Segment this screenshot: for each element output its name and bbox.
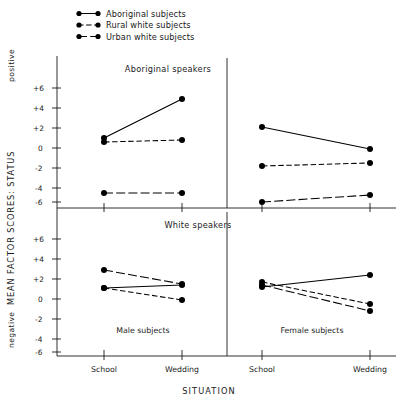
data-point [367, 308, 373, 314]
legend: Aboriginal subjects Rural white subjects… [76, 9, 194, 42]
x-label-female-wedding: Wedding [353, 365, 387, 374]
data-point [101, 285, 107, 291]
series-line [104, 285, 182, 288]
chart-svg: Aboriginal subjects Rural white subjects… [0, 0, 403, 406]
x-axis-title: SITUATION [182, 386, 235, 396]
polarity-label-negative: negative [7, 312, 16, 348]
data-point [367, 192, 373, 198]
series-urban-top-left [101, 190, 185, 196]
figure-container: Aboriginal subjects Rural white subjects… [0, 0, 403, 406]
data-point [179, 137, 185, 143]
y-tick-label-bottom-m6: -6 [35, 348, 43, 357]
top-row-title: Aboriginal speakers [125, 64, 211, 74]
data-point [367, 301, 373, 307]
series-line [104, 140, 182, 142]
legend-entry-aboriginal: Aboriginal subjects [76, 9, 185, 19]
legend-swatch-rural-marker-right [95, 22, 100, 27]
data-point [179, 282, 185, 288]
data-point [367, 146, 373, 152]
series-aboriginal-bottom-right [259, 272, 373, 290]
y-tick-label-top-m6: -6 [35, 198, 43, 207]
y-tick-label-top-0: 0 [38, 144, 43, 153]
y-tick-label-bottom-0: 0 [38, 295, 43, 304]
data-point [259, 163, 265, 169]
legend-swatch-aboriginal-marker-left [76, 11, 81, 16]
legend-swatch-urban-marker-right [95, 34, 100, 39]
legend-label-aboriginal: Aboriginal subjects [106, 9, 186, 19]
data-point [101, 139, 107, 145]
legend-entry-rural: Rural white subjects [76, 20, 190, 30]
panel-bottom-right [259, 272, 373, 314]
y-tick-label-bottom-m4: -4 [35, 335, 43, 344]
axis-frame [57, 56, 396, 356]
series-line [104, 288, 182, 300]
y-axis-title: MEAN FACTOR SCORES: STATUS [6, 151, 16, 305]
series-urban-bottom-left [101, 267, 185, 287]
polarity-label-positive: positive [7, 49, 16, 82]
legend-label-rural: Rural white subjects [106, 20, 191, 30]
series-rural-top-left [101, 137, 185, 145]
legend-swatch-aboriginal-marker-right [95, 11, 100, 16]
series-line [262, 195, 370, 202]
panel-top-right [259, 124, 373, 205]
y-tick-label-bottom-m2: -2 [35, 315, 42, 324]
x-label-male-school: School [91, 365, 117, 374]
legend-label-urban: Urban white subjects [106, 32, 194, 42]
legend-swatch-urban-marker-left [76, 34, 81, 39]
series-line [104, 99, 182, 138]
series-urban-top-right [259, 192, 373, 205]
x-ticks-mid [104, 203, 370, 212]
data-point [179, 96, 185, 102]
data-point [367, 160, 373, 166]
series-rural-top-right [259, 160, 373, 169]
y-tick-label-top-p2: +2 [33, 124, 44, 133]
series-line [262, 163, 370, 166]
legend-entry-urban: Urban white subjects [76, 32, 194, 42]
panel-bottom-left [101, 267, 185, 303]
bottom-row-title: White speakers [164, 220, 231, 230]
panel-top-left [101, 96, 185, 196]
data-point [179, 297, 185, 303]
y-tick-label-bottom-p6: +6 [33, 235, 44, 244]
data-point [367, 272, 373, 278]
y-tick-label-top-p4: +4 [33, 104, 44, 113]
y-tick-label-bottom-p2: +2 [33, 275, 44, 284]
series-urban-bottom-right [259, 282, 373, 314]
series-line [262, 282, 370, 304]
series-rural-bottom-right [259, 279, 373, 307]
data-point [101, 190, 107, 196]
x-ticks: School Wedding School Wedding [91, 350, 387, 374]
data-point [101, 267, 107, 273]
group-label-female: Female subjects [281, 326, 344, 335]
y-tick-label-bottom-p4: +4 [33, 255, 44, 264]
legend-swatch-rural-marker-left [76, 22, 81, 27]
series-line [104, 270, 182, 284]
series-aboriginal-top-right [259, 124, 373, 152]
data-point [179, 190, 185, 196]
data-point [259, 282, 265, 288]
series-aboriginal-top-left [101, 96, 185, 141]
y-tick-label-top-m4: -4 [35, 184, 43, 193]
y-tick-label-top-p6: +6 [33, 84, 44, 93]
x-label-female-school: School [249, 365, 275, 374]
series-line [262, 285, 370, 311]
series-line [262, 127, 370, 149]
y-tick-label-top-m2: -2 [35, 164, 42, 173]
x-label-male-wedding: Wedding [165, 365, 199, 374]
data-point [259, 124, 265, 130]
group-label-male: Male subjects [116, 326, 169, 335]
